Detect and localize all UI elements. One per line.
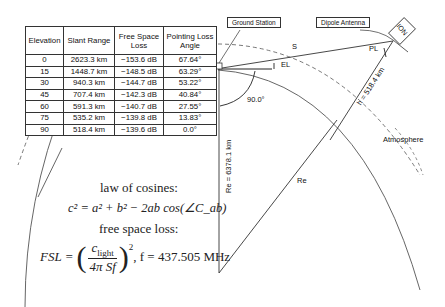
table-row: 45707.4 km−142.3 dB40.84° bbox=[26, 89, 217, 101]
header-elevation: Elevation bbox=[26, 27, 64, 55]
elevation-label: EL bbox=[281, 60, 290, 69]
law-of-cosines-equation: c² = a² + b² − 2ab cos(∠C_ab) bbox=[68, 200, 226, 216]
table-row: 60591.3 km−140.7 dB27.55° bbox=[26, 101, 217, 113]
slant-range-label: S bbox=[292, 42, 297, 51]
fsl-numerator: clight bbox=[88, 240, 116, 259]
cell: 45 bbox=[26, 89, 64, 101]
cell: −140.7 dB bbox=[115, 101, 164, 113]
link-budget-table: Elevation Slant Range Free Space Loss Po… bbox=[25, 26, 217, 136]
cell: 707.4 km bbox=[64, 89, 115, 101]
fsl-close-paren: ) bbox=[119, 242, 129, 272]
cell: 63.29° bbox=[164, 66, 217, 78]
cell: 67.64° bbox=[164, 55, 217, 67]
cell: 535.2 km bbox=[64, 112, 115, 124]
cell: 0 bbox=[26, 55, 64, 67]
cell: 0.0° bbox=[164, 124, 217, 136]
cell: −139.8 dB bbox=[115, 112, 164, 124]
numerator-sub: light bbox=[97, 248, 114, 258]
cell: −139.6 dB bbox=[115, 124, 164, 136]
cell: 1448.7 km bbox=[64, 66, 115, 78]
table-row: 151448.7 km−148.5 dB63.29° bbox=[26, 66, 217, 78]
slant-range-line bbox=[222, 41, 393, 68]
earth-radius-diagonal bbox=[219, 120, 337, 273]
free-space-loss-title: free space loss: bbox=[99, 221, 178, 237]
earth-radius-label: Re bbox=[297, 176, 307, 185]
free-space-loss-equation: FSL = ( clight 4π Sf ) 2 , f = 437.505 M… bbox=[40, 240, 230, 275]
cell: 40.84° bbox=[164, 89, 217, 101]
fsl-frequency: , f = 437.505 MHz bbox=[133, 249, 230, 265]
header-free-space-loss: Free Space Loss bbox=[115, 27, 164, 55]
table-row: 02623.3 km−153.6 dB67.64° bbox=[26, 55, 217, 67]
fsl-fraction: clight 4π Sf bbox=[88, 240, 116, 275]
cell: 60 bbox=[26, 101, 64, 113]
dipole-antenna-label: Dipole Antenna bbox=[316, 17, 370, 28]
dipole-antenna-leader bbox=[360, 30, 393, 40]
header-slant-range: Slant Range bbox=[64, 27, 115, 55]
cell: 940.3 km bbox=[64, 78, 115, 90]
table-row: 30940.3 km−144.7 dB53.22° bbox=[26, 78, 217, 90]
cell: −153.6 dB bbox=[115, 55, 164, 67]
atmosphere-label: Atmosphere bbox=[383, 135, 423, 144]
cell: 30 bbox=[26, 78, 64, 90]
cell: 591.3 km bbox=[64, 101, 115, 113]
fsl-denominator: 4π Sf bbox=[89, 259, 115, 275]
cell: 518.4 km bbox=[64, 124, 115, 136]
cell: −148.5 dB bbox=[115, 66, 164, 78]
law-of-cosines-title: law of cosines: bbox=[100, 180, 178, 196]
cell: 15 bbox=[26, 66, 64, 78]
ground-station-leader bbox=[219, 30, 240, 63]
cell: 27.55° bbox=[164, 101, 217, 113]
cell: 75 bbox=[26, 112, 64, 124]
header-pointing-loss-angle: Pointing Loss Angle bbox=[164, 27, 217, 55]
cell: −142.3 dB bbox=[115, 89, 164, 101]
table-row: 75535.2 km−139.8 dB13.83° bbox=[26, 112, 217, 124]
pointing-loss-label: PL bbox=[369, 44, 378, 53]
cell: 90 bbox=[26, 124, 64, 136]
table-row: 90518.4 km−139.6 dB0.0° bbox=[26, 124, 217, 136]
ground-station-label: Ground Station bbox=[227, 17, 281, 28]
angle-90-label: 90.0° bbox=[247, 95, 265, 104]
earth-radius-vertical-label: Re = 6378.1 km bbox=[224, 140, 233, 193]
cell: 2623.3 km bbox=[64, 55, 115, 67]
cell: −144.7 dB bbox=[115, 78, 164, 90]
cell: 53.22° bbox=[164, 78, 217, 90]
table-header-row: Elevation Slant Range Free Space Loss Po… bbox=[26, 27, 217, 55]
cell: 13.83° bbox=[164, 112, 217, 124]
fsl-open-paren: ( bbox=[76, 242, 86, 272]
fsl-lhs: FSL = bbox=[40, 249, 73, 265]
